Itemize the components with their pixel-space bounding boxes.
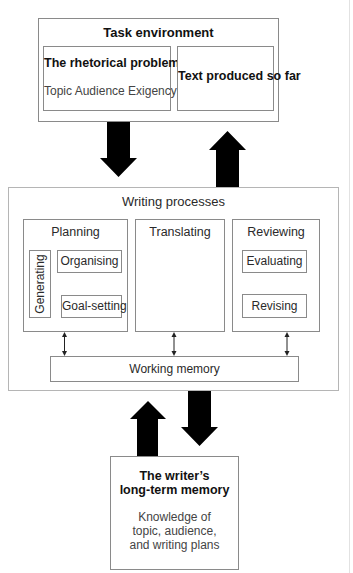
double-arrow-translating-memory bbox=[172, 332, 177, 356]
down-arrow-task-to-processes bbox=[100, 122, 137, 177]
arrows-layer bbox=[0, 0, 353, 573]
double-arrow-reviewing-memory bbox=[285, 332, 290, 356]
up-arrow-processes-to-text bbox=[209, 131, 246, 187]
double-arrow-planning-memory bbox=[62, 332, 67, 356]
up-arrow-ltm-to-processes bbox=[130, 401, 166, 456]
down-arrow-processes-to-ltm bbox=[181, 391, 218, 446]
